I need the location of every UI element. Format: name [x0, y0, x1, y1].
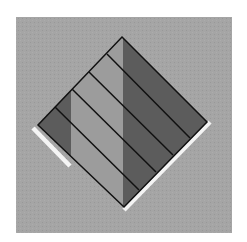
diamond-graphic [0, 0, 247, 242]
diamond-figure [0, 0, 247, 242]
